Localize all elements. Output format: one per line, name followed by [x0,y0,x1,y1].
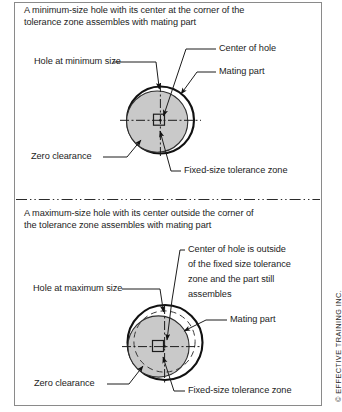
figure-root: A minimum-size hole with its center at t… [0,0,342,412]
label-zero-clearance-top: Zero clearance [31,151,92,163]
label-center-note-line4: assembles [188,289,231,301]
label-hole-at-maximum-size: Hole at maximum size [33,283,122,295]
top-panel-title-line2: tolerance zone assembles with mating par… [24,17,196,29]
label-mating-part-bottom: Mating part [230,314,275,326]
bottom-leader-hole-max [122,289,164,312]
label-fixed-size-tolerance-zone-bottom: Fixed-size tolerance zone [188,385,291,397]
label-center-note-line1: Center of hole is outside [188,244,286,256]
top-panel-title-line1: A minimum-size hole with its center at t… [24,5,244,17]
label-mating-part-top: Mating part [219,66,264,78]
label-zero-clearance-bottom: Zero clearance [34,378,95,390]
top-leader-mating-part [181,72,216,94]
bottom-diagram-geometry [107,250,227,391]
bottom-center-of-hole-dot [163,345,166,348]
label-center-note-line3: zone and the part still [188,274,274,286]
label-fixed-size-tolerance-zone-top: Fixed-size tolerance zone [184,165,287,177]
label-hole-at-minimum-size: Hole at minimum size [34,56,121,68]
label-center-note-line2: of the fixed size tolerance [188,259,291,271]
top-hole-min-circle [127,91,188,152]
bottom-panel-title-line2: the tolerance zone assembles with mating… [24,220,211,232]
bottom-panel-title-line1: A maximum-size hole with its center outs… [24,208,254,220]
label-center-of-hole: Center of hole [219,43,276,55]
top-center-of-hole-dot [159,119,162,122]
copyright-notice: © EFFECTIVE TRAINING INC. [334,290,342,402]
